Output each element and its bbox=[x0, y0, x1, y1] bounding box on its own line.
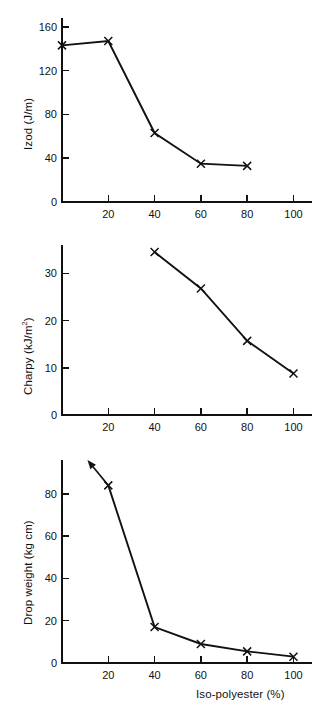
charpy-y-axis-title-suffix: ) bbox=[22, 317, 34, 321]
izod-y-tick-label: 160 bbox=[39, 21, 57, 33]
izod-x-tick-label: 60 bbox=[195, 208, 207, 220]
charpy-data-point-marker bbox=[289, 369, 297, 377]
charpy-plot: 010203020406080100 bbox=[0, 240, 328, 440]
drop-weight-plot: 02040608020406080100 bbox=[0, 440, 328, 712]
izod-plot: 0408012016020406080100 bbox=[0, 0, 328, 240]
charpy-y-tick-label: 10 bbox=[45, 362, 57, 374]
drop-x-tick-label: 60 bbox=[195, 669, 207, 681]
charpy-x-tick-label: 20 bbox=[102, 421, 114, 433]
izod-x-tick-label: 80 bbox=[241, 208, 253, 220]
charpy-y-axis-title-prefix: Charpy (kJ/m bbox=[22, 325, 34, 395]
multi-panel-figure: 0408012016020406080100 Izod (J/m) 010203… bbox=[0, 0, 328, 712]
drop-x-tick-label: 40 bbox=[148, 669, 160, 681]
charpy-y-tick-label: 20 bbox=[45, 315, 57, 327]
drop-series-line bbox=[108, 485, 293, 656]
drop-x-tick-label: 80 bbox=[241, 669, 253, 681]
panel-drop: 02040608020406080100 Drop weight (kg cm) bbox=[0, 440, 328, 712]
panel-charpy: 010203020406080100 Charpy (kJ/m2) bbox=[0, 240, 328, 440]
drop-y-tick-label: 60 bbox=[45, 530, 57, 542]
izod-y-tick-label: 80 bbox=[45, 108, 57, 120]
izod-data-point-marker bbox=[151, 129, 159, 137]
charpy-x-tick-label: 80 bbox=[241, 421, 253, 433]
izod-y-axis-title: Izod (J/m) bbox=[22, 98, 34, 150]
charpy-data-point-marker bbox=[243, 337, 251, 345]
drop-x-tick-label: 20 bbox=[102, 669, 114, 681]
charpy-x-tick-label: 60 bbox=[195, 421, 207, 433]
charpy-y-tick-label: 0 bbox=[51, 409, 57, 421]
charpy-y-tick-label: 30 bbox=[45, 267, 57, 279]
charpy-series-line bbox=[155, 252, 294, 373]
panel-izod: 0408012016020406080100 Izod (J/m) bbox=[0, 0, 328, 240]
drop-weight-y-axis-title: Drop weight (kg cm) bbox=[22, 520, 34, 625]
charpy-x-tick-label: 100 bbox=[284, 421, 302, 433]
drop-y-tick-label: 20 bbox=[45, 615, 57, 627]
drop-y-tick-label: 0 bbox=[51, 657, 57, 669]
charpy-y-axis-title: Charpy (kJ/m2) bbox=[22, 317, 34, 395]
drop-x-tick-label: 100 bbox=[284, 669, 302, 681]
izod-series-line bbox=[62, 41, 247, 166]
charpy-x-tick-label: 40 bbox=[148, 421, 160, 433]
drop-y-tick-label: 80 bbox=[45, 488, 57, 500]
izod-y-tick-label: 0 bbox=[51, 196, 57, 208]
x-axis-title: Iso-polyester (%) bbox=[196, 688, 285, 700]
izod-y-tick-label: 120 bbox=[39, 65, 57, 77]
izod-x-tick-label: 20 bbox=[102, 208, 114, 220]
drop-y-tick-label: 40 bbox=[45, 572, 57, 584]
izod-x-tick-label: 40 bbox=[148, 208, 160, 220]
izod-y-tick-label: 40 bbox=[45, 152, 57, 164]
off-scale-arrow-shaft bbox=[93, 467, 108, 485]
izod-x-tick-label: 100 bbox=[284, 208, 302, 220]
charpy-data-point-marker bbox=[151, 248, 159, 256]
charpy-data-point-marker bbox=[197, 284, 205, 292]
charpy-y-axis-title-superscript: 2 bbox=[20, 321, 29, 325]
